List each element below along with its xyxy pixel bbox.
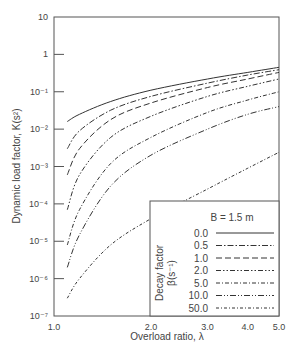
legend-entry-label: 5.0 <box>194 278 208 289</box>
y-tick-label: 10 <box>38 12 48 22</box>
legend-entry-label: 50.0 <box>189 303 209 314</box>
legend: B = 1.5 mDecay factorβ(s⁻¹)0.00.51.02.05… <box>150 201 279 316</box>
legend-entry-label: 0.5 <box>194 240 208 251</box>
y-tick-label: 10⁻⁴ <box>29 199 48 209</box>
y-tick-label: 10⁻⁷ <box>30 311 48 321</box>
legend-entry-label: 1.0 <box>194 253 208 264</box>
y-tick-label: 1 <box>43 49 48 59</box>
legend-title: B = 1.5 m <box>210 212 253 223</box>
legend-entry-label: 2.0 <box>194 265 208 276</box>
legend-side-label: Decay factor <box>154 244 165 301</box>
x-tick-label: 4.0 <box>242 322 255 332</box>
y-tick-label: 10⁻⁶ <box>29 274 48 284</box>
curve-beta-0.5 <box>67 70 279 149</box>
y-tick-label: 10⁻³ <box>30 162 48 172</box>
legend-unit: β(s⁻¹) <box>166 260 177 286</box>
y-tick-label: 10⁻⁵ <box>29 236 48 246</box>
y-axis-label: Dynamic load factor, K(s²) <box>11 108 22 223</box>
curve-beta-1.0 <box>67 72 279 174</box>
y-tick-label: 10⁻² <box>30 124 48 134</box>
x-axis-label: Overload ratio, λ <box>130 331 203 342</box>
x-tick-label: 5.0 <box>273 322 286 332</box>
legend-entry-label: 10.0 <box>189 290 209 301</box>
y-tick-label: 10⁻¹ <box>30 87 48 97</box>
chart: 10110⁻¹10⁻²10⁻³10⁻⁴10⁻⁵10⁻⁶10⁻⁷ 1.02.03.… <box>0 0 297 363</box>
x-tick-label: 1.0 <box>48 322 61 332</box>
legend-entry-label: 0.0 <box>194 228 208 239</box>
y-axis-ticks: 10110⁻¹10⁻²10⁻³10⁻⁴10⁻⁵10⁻⁶10⁻⁷ <box>29 12 64 321</box>
